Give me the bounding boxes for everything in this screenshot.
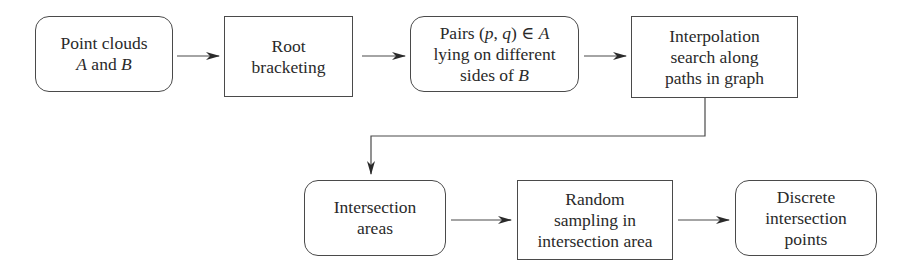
node-point-clouds: Point clouds A and B	[35, 16, 173, 92]
node-label: Pairs (p, q) ∈ A	[440, 23, 550, 44]
node-label: lying on different	[433, 44, 555, 65]
node-label: Intersection	[334, 197, 417, 218]
node-label: intersection	[765, 208, 847, 229]
node-label: Discrete	[777, 187, 835, 208]
node-label: paths in graph	[665, 68, 764, 89]
text: sides of	[460, 65, 518, 85]
text: Pairs (	[440, 23, 485, 43]
node-label: points	[785, 229, 828, 250]
text: ) ∈	[511, 23, 539, 43]
node-root-bracketing: Root bracketing	[224, 16, 353, 97]
math-var-b: B	[121, 54, 132, 74]
node-pairs: Pairs (p, q) ∈ A lying on different side…	[410, 16, 579, 92]
math-var-b: B	[518, 65, 529, 85]
node-label: Root	[271, 36, 305, 57]
node-label: Random	[565, 189, 624, 210]
node-label: sampling in	[554, 210, 636, 231]
node-label: Interpolation	[669, 26, 759, 47]
node-label: areas	[357, 218, 393, 239]
node-random-sampling: Random sampling in intersection area	[517, 180, 673, 260]
node-label: bracketing	[252, 57, 326, 78]
math-var-p: p	[485, 23, 494, 43]
node-label: A and B	[76, 54, 131, 75]
node-interpolation-search: Interpolation search along paths in grap…	[631, 16, 798, 98]
node-discrete-points: Discrete intersection points	[735, 180, 877, 256]
math-var-a: A	[539, 23, 550, 43]
text: and	[87, 54, 121, 74]
node-label: intersection area	[537, 231, 652, 252]
node-intersection-areas: Intersection areas	[304, 180, 446, 256]
node-label: Point clouds	[60, 33, 147, 54]
arrow-n4-n5	[371, 98, 705, 174]
node-label: sides of B	[460, 65, 529, 86]
math-var-a: A	[76, 54, 87, 74]
math-var-q: q	[502, 23, 511, 43]
node-label: search along	[671, 47, 759, 68]
